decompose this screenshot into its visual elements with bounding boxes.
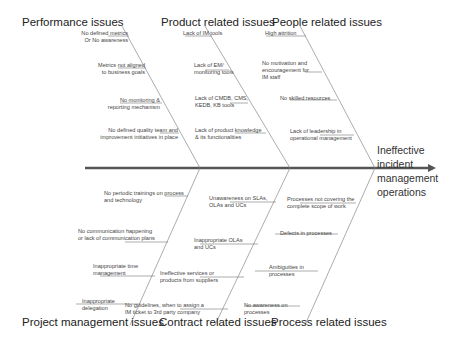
- category-project-title: Project management issues: [22, 316, 164, 329]
- category-people-title: People related issues: [272, 16, 382, 29]
- cause-process-1: Processes not covering thecomplete scope…: [287, 196, 354, 210]
- cause-product-2: Lack of EM/monitoring tools: [194, 62, 234, 76]
- category-contract-title: Contract related issues: [159, 316, 277, 329]
- cause-project-1: No periodic trainings on processand tech…: [104, 190, 184, 204]
- cause-people-1: High attrition: [265, 30, 296, 37]
- effect-label: Ineffective incident management operatio…: [377, 143, 438, 199]
- cause-contract-3: Ineffective services orproducts from sup…: [160, 270, 218, 284]
- cause-product-1: Lack of IM tools: [183, 30, 222, 37]
- cause-performance-1: No defined metricsOr No awareness: [81, 30, 128, 44]
- cause-process-3: Ambiguities inprocesses: [269, 264, 304, 278]
- cause-people-3: No skilled resources: [280, 95, 330, 102]
- cause-people-2: No motivation andencouragement forIM sta…: [262, 60, 309, 81]
- cause-project-3: Inappropriate timemanagement: [93, 263, 138, 277]
- cause-project-4: Inappropriatedelegation: [82, 298, 115, 312]
- cause-contract-2: Inappropriate OLAsand UCs: [194, 237, 243, 251]
- cause-product-4: Lack of product knowledge& its functiona…: [195, 127, 262, 141]
- cause-performance-3: No monitoring &reporting mechanism: [108, 97, 160, 111]
- category-product-title: Product related issues: [161, 16, 275, 29]
- cause-performance-2: Metrics not alignedto business goals: [98, 62, 145, 76]
- bone-process: [305, 168, 375, 325]
- cause-people-4: Lack of leadership inoperational managem…: [290, 128, 352, 142]
- cause-process-4: No awareness onprocesses: [244, 302, 288, 316]
- cause-product-3: Lack of CMDB, CMS,KEDB, KB tools: [195, 95, 248, 109]
- category-process-title: Process related issues: [271, 316, 387, 329]
- cause-project-2: No communication happeningor lack of com…: [78, 228, 155, 242]
- cause-contract-4: No guidelines, when to assign aIM ticket…: [125, 302, 204, 316]
- cause-contract-1: Unawareness on SLAs,OLAs and UCs: [209, 195, 267, 209]
- cause-performance-4: No defined quality team andimprovement i…: [100, 127, 178, 141]
- cause-process-2: Defects in processes: [280, 230, 332, 237]
- category-performance-title: Performance issues: [22, 16, 124, 29]
